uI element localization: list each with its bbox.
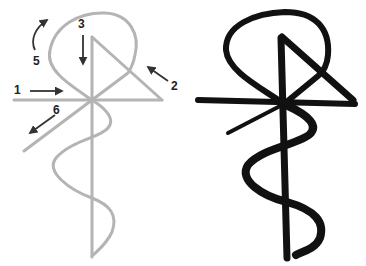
symbol-loop bbox=[226, 12, 328, 104]
finished-symbol-figure bbox=[198, 12, 355, 258]
direction-arrows bbox=[30, 20, 168, 133]
symbol-diagonal bbox=[282, 37, 353, 100]
stroke-guide-figure bbox=[14, 13, 162, 257]
step-label-5: 5 bbox=[33, 55, 40, 67]
step-label-1: 1 bbox=[14, 84, 21, 96]
arrow-2-icon bbox=[148, 67, 168, 81]
step-label-2: 2 bbox=[171, 80, 178, 92]
arrow-5-icon bbox=[33, 20, 47, 50]
diagram-canvas bbox=[0, 0, 366, 266]
step-label-6: 6 bbox=[53, 104, 60, 116]
step-label-3: 3 bbox=[78, 18, 85, 30]
symbol-diagonal-tail bbox=[228, 104, 284, 133]
